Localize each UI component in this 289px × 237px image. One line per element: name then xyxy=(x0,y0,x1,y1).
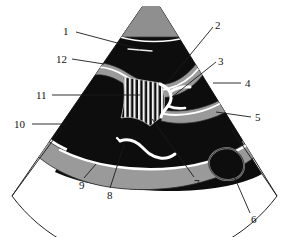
label-12: 12 xyxy=(56,54,67,65)
ultrasound-sector-scan xyxy=(0,0,289,237)
label-2: 2 xyxy=(215,20,221,31)
label-7: 7 xyxy=(194,178,200,189)
label-8: 8 xyxy=(107,190,113,201)
label-10: 10 xyxy=(14,119,25,130)
teardrop-mass xyxy=(209,148,244,180)
label-3: 3 xyxy=(218,56,224,67)
label-6: 6 xyxy=(251,214,257,225)
label-1: 1 xyxy=(63,26,69,37)
label-4: 4 xyxy=(245,78,251,89)
ultrasound-figure: 1 2 3 4 5 6 7 8 9 10 11 12 xyxy=(0,0,289,237)
transducer-footprint xyxy=(118,6,185,37)
label-11: 11 xyxy=(36,90,47,101)
label-9: 9 xyxy=(79,180,85,191)
label-5: 5 xyxy=(255,112,261,123)
leader-line-12 xyxy=(72,59,104,64)
